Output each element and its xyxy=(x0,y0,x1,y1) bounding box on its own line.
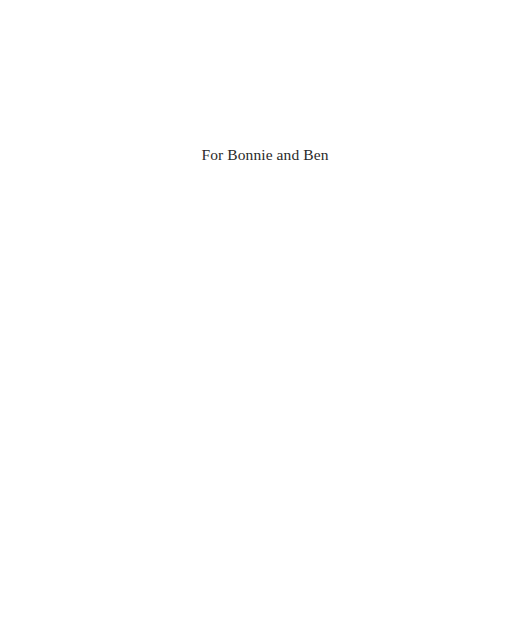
book-page: For Bonnie and Ben xyxy=(0,0,530,623)
dedication-text: For Bonnie and Ben xyxy=(0,145,530,165)
